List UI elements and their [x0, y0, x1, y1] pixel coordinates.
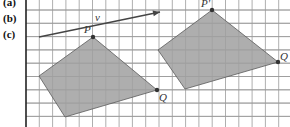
- vector-label: v: [95, 11, 100, 23]
- grid-canvas: PQP'Q v: [0, 0, 290, 127]
- translation-vector: v: [39, 10, 160, 37]
- vertex-point-icon: [210, 8, 214, 12]
- shape-translated: P'Q: [158, 0, 288, 89]
- part-label-c: (c): [3, 28, 15, 40]
- quadrilateral: [158, 10, 278, 89]
- vertex-label: P': [200, 0, 211, 9]
- shapes-layer: PQP'Q: [39, 0, 288, 117]
- vertex-point-icon: [91, 35, 95, 39]
- vertex-label: P: [83, 23, 91, 35]
- translation-diagram: PQP'Q v (a) (b) (c): [0, 0, 290, 127]
- quadrilateral: [39, 37, 157, 117]
- part-label-b: (b): [3, 12, 16, 24]
- part-label-a: (a): [3, 0, 16, 8]
- part-labels: (a) (b) (c): [0, 0, 26, 127]
- vertex-label: Q: [280, 50, 288, 62]
- vertex-label: Q: [159, 91, 167, 103]
